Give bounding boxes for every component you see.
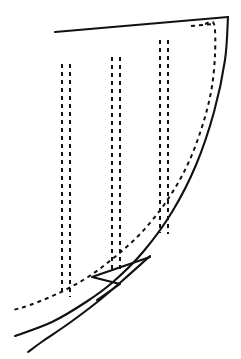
- line-drawing-canvas: [0, 0, 241, 359]
- technical-drawing-figure: [0, 0, 241, 359]
